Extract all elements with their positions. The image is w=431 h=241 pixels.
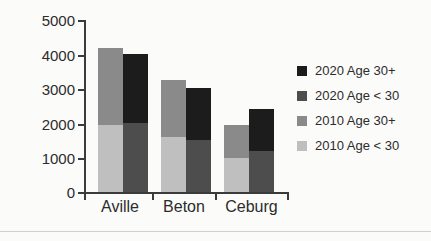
legend-swatch-icon <box>297 66 307 76</box>
bar-ceburg-2020-age30plus <box>249 109 274 151</box>
bar-ceburg-2020-ageunder30 <box>249 151 274 192</box>
legend-label: 2010 Age 30+ <box>315 114 396 127</box>
legend-label: 2010 Age < 30 <box>315 139 399 152</box>
bar-beton-2020-age30plus <box>186 88 211 140</box>
x-tick-label-ceburg: Ceburg <box>216 198 287 216</box>
y-tick-2000 <box>78 124 85 126</box>
bar-aville-2020-ageunder30 <box>123 123 148 192</box>
y-tick-3000 <box>78 89 85 91</box>
plot-area: 5000 4000 3000 2000 1000 0 <box>0 0 300 225</box>
legend-label: 2020 Age 30+ <box>315 64 396 77</box>
legend-swatch-icon <box>297 116 307 126</box>
x-tick-label-aville: Aville <box>88 198 152 216</box>
bar-aville-2010-ageunder30 <box>98 125 123 192</box>
x-tick-label-beton: Beton <box>153 198 215 216</box>
chart-figure: 5000 4000 3000 2000 1000 0 <box>0 0 431 241</box>
y-tick-label-0: 0 <box>23 185 75 200</box>
chart-legend: 2020 Age 30+ 2020 Age < 30 2010 Age 30+ … <box>297 58 427 158</box>
y-tick-label-2000: 2000 <box>23 117 75 132</box>
x-tick-start <box>84 192 86 200</box>
y-tick-label-4000: 4000 <box>23 48 75 63</box>
bar-beton-2010-ageunder30 <box>161 137 186 192</box>
x-axis-line <box>84 192 289 194</box>
y-tick-label-1000: 1000 <box>23 151 75 166</box>
y-tick-5000 <box>78 20 85 22</box>
bar-beton-2020-ageunder30 <box>186 140 211 192</box>
y-tick-4000 <box>78 55 85 57</box>
bar-ceburg-2010-age30plus <box>224 125 249 158</box>
legend-label: 2020 Age < 30 <box>315 89 399 102</box>
legend-swatch-icon <box>297 91 307 101</box>
legend-swatch-icon <box>297 141 307 151</box>
legend-item-2020-ageunder30: 2020 Age < 30 <box>297 83 427 108</box>
legend-item-2010-age30plus: 2010 Age 30+ <box>297 108 427 133</box>
legend-item-2010-ageunder30: 2010 Age < 30 <box>297 133 427 158</box>
bar-ceburg-2010-ageunder30 <box>224 158 249 192</box>
y-tick-1000 <box>78 158 85 160</box>
y-tick-label-5000: 5000 <box>23 13 75 28</box>
y-tick-label-3000: 3000 <box>23 82 75 97</box>
bar-aville-2010-age30plus <box>98 48 123 125</box>
x-tick-end <box>287 192 289 200</box>
bar-aville-2020-age30plus <box>123 54 148 123</box>
bar-beton-2010-age30plus <box>161 80 186 137</box>
bottom-divider <box>0 231 431 232</box>
legend-item-2020-age30plus: 2020 Age 30+ <box>297 58 427 83</box>
y-axis-line <box>84 20 86 193</box>
